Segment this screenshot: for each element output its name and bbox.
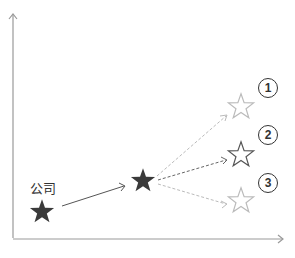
dashed-arrow-option-1	[157, 115, 227, 176]
option-3-number-badge: 3	[258, 173, 278, 193]
progress-arrow	[62, 183, 125, 206]
company-label: 公司	[30, 178, 56, 197]
diagram-graphics	[0, 0, 295, 258]
diagram-canvas: 公司 1 2 3	[0, 0, 295, 258]
option-1-star-icon	[228, 94, 253, 118]
option-1-number-badge: 1	[258, 78, 278, 98]
middle-star-icon	[131, 168, 155, 191]
y-axis	[9, 14, 17, 238]
dashed-arrow-option-2	[158, 157, 227, 180]
start-star-icon	[30, 199, 54, 222]
x-axis	[13, 235, 283, 243]
option-2-number-badge: 2	[258, 125, 278, 145]
option-2-star-icon	[228, 142, 253, 166]
option-3-star-icon	[228, 188, 253, 212]
dashed-arrow-option-3	[158, 184, 227, 208]
